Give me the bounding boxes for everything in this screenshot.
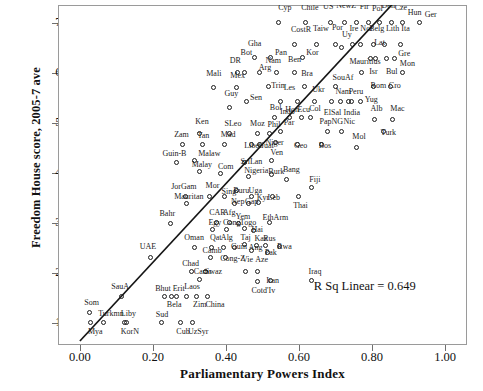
data-point[interactable] xyxy=(263,243,268,248)
point-label: Burk xyxy=(268,168,284,176)
point-label: PapNG xyxy=(319,118,343,126)
data-point[interactable] xyxy=(174,294,179,299)
x-axis-title: Parliamentary Powers Index xyxy=(58,366,467,382)
data-point[interactable] xyxy=(197,277,202,282)
data-point[interactable] xyxy=(272,115,277,120)
data-point[interactable] xyxy=(309,185,314,190)
data-point[interactable] xyxy=(184,201,189,206)
data-point[interactable] xyxy=(325,129,330,134)
point-label: Rom xyxy=(371,82,387,90)
data-point[interactable] xyxy=(200,142,205,147)
point-label: Oman xyxy=(184,234,204,242)
data-point[interactable] xyxy=(296,194,301,199)
data-point[interactable] xyxy=(349,99,354,104)
data-point[interactable] xyxy=(159,320,164,325)
data-point[interactable] xyxy=(302,84,307,89)
point-label: UAE xyxy=(140,243,156,251)
data-point[interactable] xyxy=(284,177,289,182)
data-point[interactable] xyxy=(180,142,185,147)
data-point[interactable] xyxy=(119,294,124,299)
point-label: Guy xyxy=(225,90,239,98)
data-point[interactable] xyxy=(276,20,281,25)
point-label: Iraq xyxy=(309,268,322,276)
data-point[interactable] xyxy=(295,99,300,104)
point-label: ElSal xyxy=(324,109,341,117)
data-point[interactable] xyxy=(400,70,405,75)
data-point[interactable] xyxy=(252,55,257,60)
data-point[interactable] xyxy=(299,115,304,120)
data-point[interactable] xyxy=(338,99,343,104)
point-label: Par xyxy=(284,119,295,127)
data-point[interactable] xyxy=(190,320,195,325)
data-point[interactable] xyxy=(124,320,129,325)
point-label: Zim xyxy=(193,301,206,309)
data-point[interactable] xyxy=(339,129,344,134)
point-label: Liby xyxy=(121,310,136,318)
x-tick-label: 0.60 xyxy=(269,350,329,365)
data-point[interactable] xyxy=(333,42,338,47)
data-point[interactable] xyxy=(292,42,297,47)
point-label: Mauritan xyxy=(174,193,203,201)
point-label: Turk xyxy=(381,129,396,137)
data-point[interactable] xyxy=(211,85,216,90)
data-point[interactable] xyxy=(398,42,403,47)
point-label: Phil xyxy=(268,121,281,129)
data-point[interactable] xyxy=(169,294,174,299)
data-point[interactable] xyxy=(274,70,279,75)
point-label: Bos xyxy=(319,142,331,150)
data-point[interactable] xyxy=(255,131,260,136)
data-point[interactable] xyxy=(312,99,317,104)
data-point[interactable] xyxy=(354,145,359,150)
data-point[interactable] xyxy=(101,320,106,325)
point-label: Cyp xyxy=(278,5,291,12)
data-point[interactable] xyxy=(244,99,249,104)
data-point[interactable] xyxy=(384,56,389,61)
data-point[interactable] xyxy=(222,142,227,147)
data-point[interactable] xyxy=(358,99,363,104)
data-point[interactable] xyxy=(208,255,213,260)
data-point[interactable] xyxy=(267,131,272,136)
data-point[interactable] xyxy=(192,245,197,250)
point-label: SauA xyxy=(111,283,129,291)
data-point[interactable] xyxy=(292,70,297,75)
point-label: Geo xyxy=(294,142,307,150)
point-label: Bang xyxy=(283,166,300,174)
point-label: Malay xyxy=(192,161,212,169)
data-point[interactable] xyxy=(227,105,232,110)
data-point[interactable] xyxy=(255,269,260,274)
data-point[interactable] xyxy=(269,158,274,163)
data-point[interactable] xyxy=(329,99,334,104)
data-point[interactable] xyxy=(372,117,377,122)
point-label: US xyxy=(323,5,333,11)
point-label: Thai xyxy=(293,202,308,210)
data-point[interactable] xyxy=(243,269,248,274)
point-label: Bela xyxy=(167,301,182,309)
data-point[interactable] xyxy=(417,20,422,25)
point-label: Som xyxy=(84,299,99,307)
data-point[interactable] xyxy=(184,294,189,299)
data-point[interactable] xyxy=(392,56,397,61)
data-point[interactable] xyxy=(88,320,93,325)
point-label: Alb xyxy=(371,105,383,113)
point-label: Ven xyxy=(271,149,283,157)
point-label: Cze xyxy=(395,5,407,12)
point-label: Nep xyxy=(231,198,244,206)
data-point[interactable] xyxy=(174,160,179,165)
point-label: Ger xyxy=(425,11,437,19)
data-point[interactable] xyxy=(242,242,247,247)
point-label: Leb xyxy=(268,194,280,202)
data-point[interactable] xyxy=(339,45,344,50)
data-point[interactable] xyxy=(87,310,92,315)
point-label: NewZ xyxy=(336,5,356,10)
data-point[interactable] xyxy=(168,221,173,226)
data-point[interactable] xyxy=(359,70,364,75)
point-label: Hai xyxy=(252,226,264,234)
data-point[interactable] xyxy=(390,117,395,122)
data-point[interactable] xyxy=(255,279,260,284)
data-point[interactable] xyxy=(197,169,202,174)
data-point[interactable] xyxy=(207,194,212,199)
data-point[interactable] xyxy=(218,171,223,176)
data-point[interactable] xyxy=(162,294,167,299)
data-point[interactable] xyxy=(303,20,308,25)
data-point[interactable] xyxy=(210,227,215,232)
